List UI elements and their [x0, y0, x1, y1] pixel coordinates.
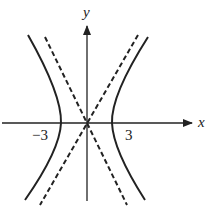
- hyperbola-right-branch: [112, 37, 148, 200]
- tick-label-3: 3: [125, 128, 133, 143]
- x-axis-label: x: [198, 115, 205, 130]
- asymptote-positive-slope: [40, 35, 138, 205]
- diagram-canvas: [0, 0, 205, 209]
- hyperbola-diagram: y x −3 3: [0, 0, 205, 209]
- asymptote-negative-slope: [45, 37, 127, 205]
- y-axis-label: y: [83, 5, 90, 20]
- tick-label-neg3: −3: [32, 128, 48, 143]
